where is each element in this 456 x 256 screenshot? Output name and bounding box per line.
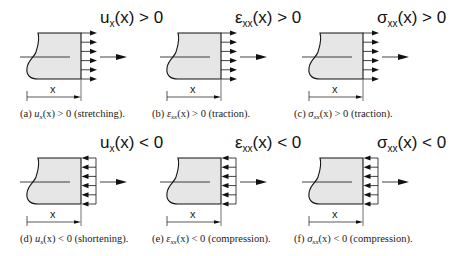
arrowhead-left-icon	[364, 165, 371, 170]
figure-canvas	[0, 0, 456, 256]
arrowhead-left-icon	[222, 183, 229, 188]
caption-text: (x) > 0 (traction).	[177, 108, 250, 119]
arrowhead-left-icon	[222, 174, 229, 179]
panel-d-caption: (d) ux(x) < 0 (shortening).	[20, 234, 128, 246]
panel-f	[302, 155, 409, 226]
dimension-label-x: x	[50, 84, 56, 95]
traction-arrows	[81, 30, 97, 81]
arrowhead-right-icon	[116, 54, 127, 60]
arrowhead-left-icon	[222, 155, 229, 160]
body-section-shape	[309, 158, 363, 204]
arrowhead-left-icon	[222, 165, 229, 170]
title-condition: (x) < 0	[253, 133, 302, 152]
caption-tag: (c)	[294, 108, 308, 119]
arrowhead-right-icon	[230, 49, 237, 54]
dimension-label-x: x	[332, 209, 338, 220]
panel-e-caption: (e) εxx(x) < 0 (compression).	[152, 234, 271, 246]
arrowhead-right-icon	[230, 67, 237, 72]
arrowhead-left-icon	[364, 183, 371, 188]
arrowhead-right-icon	[256, 54, 267, 60]
caption-text: (x) < 0 (shortening).	[43, 233, 128, 244]
title-subscript: xx	[243, 143, 253, 154]
body-section-shape	[309, 33, 363, 79]
panel-a-title: ux(x) > 0	[100, 9, 163, 29]
arrowhead-right-icon	[372, 58, 379, 63]
panel-b-title: εxx(x) > 0	[235, 9, 301, 29]
arrowhead-right-icon	[372, 67, 379, 72]
panel-c-title: σxx(x) > 0	[377, 9, 446, 29]
title-symbol: ε	[235, 8, 243, 27]
caption-tag: (d)	[20, 233, 35, 244]
caption-tag: (a)	[20, 108, 34, 119]
compression-arrows	[82, 155, 97, 206]
arrowhead-right-icon	[230, 58, 237, 63]
compression-arrows	[364, 155, 379, 206]
dimension-label-x: x	[190, 209, 196, 220]
panel-a	[20, 30, 127, 101]
arrowhead-right-icon	[90, 67, 97, 72]
title-subscript: xx	[388, 143, 398, 154]
panel-e	[160, 155, 267, 226]
panel-c	[302, 30, 409, 101]
caption-tag: (f)	[294, 233, 307, 244]
title-subscript: xx	[388, 18, 398, 29]
arrowhead-right-icon	[90, 58, 97, 63]
caption-text: (x) > 0 (stretching).	[43, 108, 125, 119]
title-subscript: xx	[243, 18, 253, 29]
caption-text: (x) < 0 (compression).	[177, 233, 271, 244]
arrowhead-right-icon	[116, 179, 127, 185]
arrowhead-right-icon	[372, 30, 379, 35]
panel-f-title: σxx(x) < 0	[377, 134, 446, 154]
arrowhead-left-icon	[82, 165, 89, 170]
arrowhead-right-icon	[230, 30, 237, 35]
arrowhead-right-icon	[372, 49, 379, 54]
panel-d	[20, 155, 127, 226]
arrowhead-left-icon	[222, 192, 229, 197]
arrowhead-left-icon	[82, 201, 89, 206]
arrowhead-left-icon	[364, 192, 371, 197]
caption-tag: (e)	[152, 233, 166, 244]
dimension-label-x: x	[332, 84, 338, 95]
arrowhead-right-icon	[398, 179, 409, 185]
arrowhead-left-icon	[82, 192, 89, 197]
title-condition: (x) < 0	[398, 133, 447, 152]
arrowhead-left-icon	[82, 183, 89, 188]
title-condition: (x) > 0	[114, 8, 163, 27]
body-section-shape	[167, 33, 221, 79]
arrowhead-right-icon	[90, 30, 97, 35]
arrowhead-right-icon	[372, 40, 379, 45]
arrowhead-right-icon	[230, 40, 237, 45]
caption-text: (x) < 0 (compression).	[319, 233, 413, 244]
arrowhead-left-icon	[364, 201, 371, 206]
panel-b-caption: (b) εxx(x) > 0 (traction).	[152, 109, 250, 121]
dimension-label-x: x	[50, 209, 56, 220]
arrowhead-right-icon	[90, 40, 97, 45]
title-condition: (x) < 0	[114, 133, 163, 152]
caption-tag: (b)	[152, 108, 167, 119]
arrowhead-left-icon	[82, 174, 89, 179]
title-symbol: ε	[235, 133, 243, 152]
panel-f-caption: (f) σxx(x) < 0 (compression).	[294, 234, 413, 246]
arrowhead-left-icon	[222, 201, 229, 206]
panel-d-title: ux(x) < 0	[100, 134, 163, 154]
arrowhead-right-icon	[372, 76, 379, 81]
arrowhead-left-icon	[82, 155, 89, 160]
arrowhead-right-icon	[230, 76, 237, 81]
caption-text: (x) > 0 (traction).	[320, 108, 393, 119]
traction-arrows	[221, 30, 237, 81]
panel-a-caption: (a) ux(x) > 0 (stretching).	[20, 109, 125, 121]
panel-b	[160, 30, 267, 101]
arrowhead-right-icon	[90, 49, 97, 54]
title-condition: (x) > 0	[253, 8, 302, 27]
arrowhead-right-icon	[398, 54, 409, 60]
body-section-shape	[167, 158, 221, 204]
traction-arrows	[363, 30, 379, 81]
panel-c-caption: (c) σxx(x) > 0 (traction).	[294, 109, 393, 121]
arrowhead-right-icon	[256, 179, 267, 185]
arrowhead-left-icon	[364, 155, 371, 160]
arrowhead-right-icon	[90, 76, 97, 81]
compression-arrows	[222, 155, 237, 206]
arrowhead-left-icon	[364, 174, 371, 179]
title-condition: (x) > 0	[398, 8, 447, 27]
panel-e-title: εxx(x) < 0	[235, 134, 301, 154]
